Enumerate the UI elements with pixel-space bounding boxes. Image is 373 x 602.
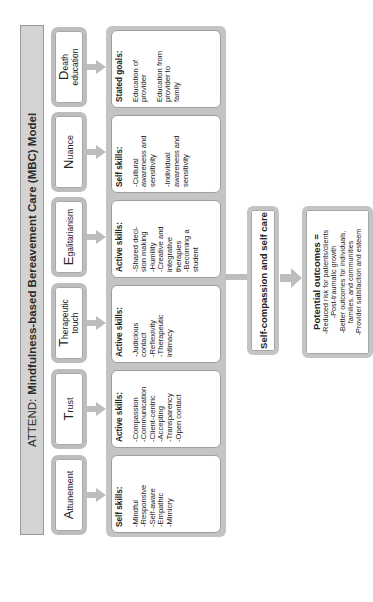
arrow-down-icon [86, 145, 106, 159]
card-therapeutic-touch: Active skills: -Judicious contact -Refle… [111, 285, 221, 363]
mbc-model-diagram: ATTEND:Mindfulness-based Bereavement Car… [0, 0, 373, 602]
box-trust: Trust [51, 369, 87, 449]
box-therapeutic-touch: Therapeutictouch [51, 283, 87, 363]
arrow-down-icon [280, 268, 302, 288]
arrow-down-icon [86, 60, 106, 74]
box-death-education: Deatheducation [51, 27, 87, 107]
title-main: Mindfulness-based Bereavement Care (MBC)… [26, 113, 38, 395]
box-attunement: Attunement [51, 455, 87, 535]
card-nuance: Self skills: -Cultural awareness and sen… [111, 115, 221, 193]
card-death-education: Stated goals: Education of provider Educ… [111, 30, 221, 108]
connector-line [225, 274, 248, 280]
card-attunement: Self skills: -Mindful -Responsive -Self-… [111, 455, 221, 533]
title-prefix: ATTEND: [26, 399, 38, 447]
arrow-down-icon [86, 488, 106, 502]
arrow-down-icon [86, 316, 106, 330]
diagram-title: ATTEND:Mindfulness-based Bereavement Car… [20, 25, 44, 535]
box-nuance: Nuance [51, 112, 87, 192]
card-egalitarianism: Active skills: -Shared deci- sion making… [111, 200, 221, 278]
arrow-down-icon [86, 230, 106, 244]
card-trust: Active skills: -Compassion -Communicatio… [111, 370, 221, 448]
self-care-box: Self-compassion and self care [247, 206, 279, 355]
arrow-down-icon [86, 402, 106, 416]
box-egalitarianism: Egalitarianism [51, 197, 87, 277]
potential-outcomes-box: Potential outcomes = -Reduced risk for p… [302, 206, 373, 358]
